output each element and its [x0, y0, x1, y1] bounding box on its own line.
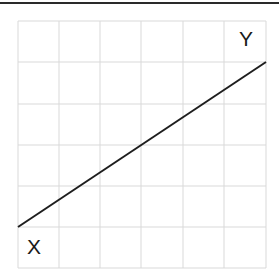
- grid-diagram: [0, 0, 279, 274]
- label-x: X: [27, 236, 41, 257]
- label-y: Y: [239, 28, 253, 49]
